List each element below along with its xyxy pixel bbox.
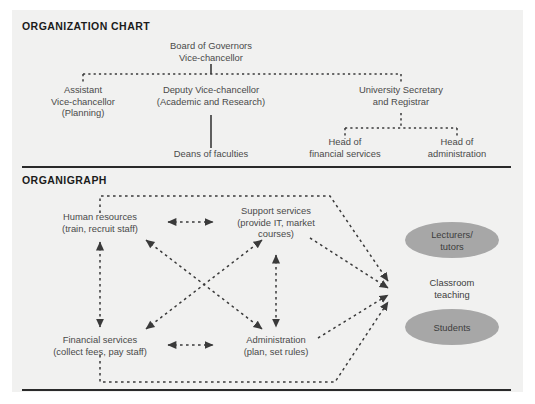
node-support-services: Support services (provide IT, market cou… — [216, 205, 336, 240]
section-heading-organigraph: ORGANIGRAPH — [22, 174, 107, 186]
node-support-services-line-2: (provide IT, market — [216, 217, 336, 229]
node-deputy-vice-chancellor: Deputy Vice-chancellor (Academic and Res… — [131, 84, 291, 107]
node-human-resources-line-2: (train, recruit staff) — [40, 223, 160, 235]
node-board-line-2: Vice-chancellor — [151, 52, 271, 64]
node-head-financial-line-1: Head of — [288, 136, 402, 148]
node-human-resources-line-1: Human resources — [40, 211, 160, 223]
label-classroom-line-1: Classroom — [397, 277, 507, 289]
node-financial-services-line-2: (collect fees, pay staff) — [36, 346, 164, 358]
node-university-secretary: University Secretary and Registrar — [331, 84, 471, 107]
node-university-secretary-line-2: and Registrar — [331, 96, 471, 108]
node-assistant-vc-line-1: Assistant — [23, 84, 143, 96]
label-lecturers-tutors: Lecturers/ tutors — [397, 229, 507, 252]
label-students: Students — [397, 322, 507, 334]
node-head-admin-line-2: administration — [402, 148, 512, 160]
node-head-of-financial-services: Head of financial services — [288, 136, 402, 159]
node-deputy-vc-line-1: Deputy Vice-chancellor — [131, 84, 291, 96]
node-administration-line-1: Administration — [219, 334, 333, 346]
node-board-of-governors: Board of Governors Vice-chancellor — [151, 40, 271, 63]
label-lecturers-line-1: Lecturers/ — [397, 229, 507, 241]
node-support-services-line-1: Support services — [216, 205, 336, 217]
label-students-line-1: Students — [397, 322, 507, 334]
label-classroom-line-2: teaching — [397, 289, 507, 301]
node-assistant-vice-chancellor: Assistant Vice-chancellor (Planning) — [23, 84, 143, 119]
node-human-resources: Human resources (train, recruit staff) — [40, 211, 160, 234]
section-divider-bottom — [22, 389, 511, 391]
section-divider-middle — [22, 166, 511, 168]
node-deans-line-1: Deans of faculties — [151, 148, 271, 160]
node-assistant-vc-line-3: (Planning) — [23, 107, 143, 119]
node-administration-line-2: (plan, set rules) — [219, 346, 333, 358]
node-administration: Administration (plan, set rules) — [219, 334, 333, 357]
node-head-of-administration: Head of administration — [402, 136, 512, 159]
node-support-services-line-3: courses) — [216, 228, 336, 240]
diagram-page: ORGANIZATION CHART ORGANIGRAPH — [0, 0, 535, 404]
label-lecturers-line-2: tutors — [397, 241, 507, 253]
node-financial-services: Financial services (collect fees, pay st… — [36, 334, 164, 357]
node-university-secretary-line-1: University Secretary — [331, 84, 471, 96]
node-financial-services-line-1: Financial services — [36, 334, 164, 346]
section-heading-organization-chart: ORGANIZATION CHART — [22, 20, 150, 32]
node-head-admin-line-1: Head of — [402, 136, 512, 148]
node-board-line-1: Board of Governors — [151, 40, 271, 52]
node-head-financial-line-2: financial services — [288, 148, 402, 160]
node-deputy-vc-line-2: (Academic and Research) — [131, 96, 291, 108]
node-deans-of-faculties: Deans of faculties — [151, 148, 271, 160]
node-assistant-vc-line-2: Vice-chancellor — [23, 96, 143, 108]
label-classroom-teaching: Classroom teaching — [397, 277, 507, 300]
